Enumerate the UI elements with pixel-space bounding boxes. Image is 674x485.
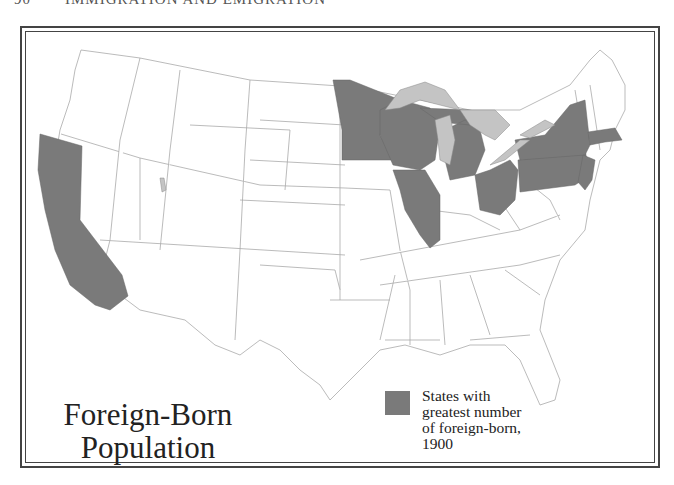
page-number: 90 [14,0,31,7]
legend-line: 1900 [422,436,562,452]
legend-swatch [385,391,410,415]
legend-line: States with [422,388,562,404]
map-title-line2: Population [38,431,258,464]
legend-line: greatest number [422,404,562,420]
page-header: 90IMMIGRATION AND EMIGRATION [14,0,326,8]
running-title: IMMIGRATION AND EMIGRATION [65,0,326,7]
legend-label: States with greatest number of foreign-b… [422,388,562,452]
map-title-line1: Foreign-Born [38,398,258,431]
map-title: Foreign-Born Population [38,398,258,464]
legend-line: of foreign-born, [422,420,562,436]
